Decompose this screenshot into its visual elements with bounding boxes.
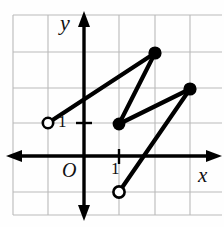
x-axis-arrow-right xyxy=(206,150,222,162)
x-axis-arrow-left xyxy=(6,150,22,162)
y-axis-unit-label: 1 xyxy=(58,113,67,130)
x-axis-label: x xyxy=(198,165,207,186)
y-axis-arrow-down xyxy=(78,205,90,221)
point-open-left xyxy=(43,118,53,128)
point-filled-mid xyxy=(113,118,126,131)
figure-canvas: y x O 1 1 xyxy=(0,0,224,227)
y-axis-label: y xyxy=(60,12,70,34)
point-filled-top xyxy=(148,46,161,59)
grid-lines xyxy=(13,15,222,215)
point-filled-right xyxy=(183,82,196,95)
point-open-bottom xyxy=(113,186,124,197)
coordinate-plot xyxy=(0,0,224,227)
x-axis-unit-label: 1 xyxy=(111,160,120,177)
origin-label: O xyxy=(62,160,76,180)
y-axis-arrow-up xyxy=(78,11,90,27)
axes xyxy=(16,24,214,206)
